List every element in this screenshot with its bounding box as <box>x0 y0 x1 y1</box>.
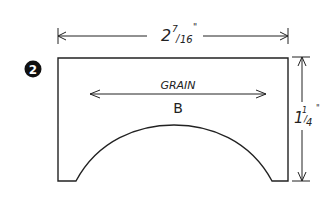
part-b-drawing: 2 2 7 / 16 " GRAIN B 1 1 / 4 " <box>0 0 335 198</box>
svg-text:2: 2 <box>161 26 171 45</box>
svg-text:": " <box>193 22 197 32</box>
svg-text:16: 16 <box>180 34 193 45</box>
svg-text:": " <box>316 104 320 113</box>
height-dimension-label: 1 1 / 4 " <box>294 104 320 128</box>
part-outline <box>58 58 288 181</box>
step-badge: 2 <box>25 61 42 78</box>
width-dimension-label: 2 7 / 16 " <box>161 22 197 45</box>
grain-label: GRAIN <box>160 79 195 92</box>
part-label: B <box>173 100 183 116</box>
step-number: 2 <box>29 63 37 77</box>
svg-text:4: 4 <box>306 117 312 128</box>
